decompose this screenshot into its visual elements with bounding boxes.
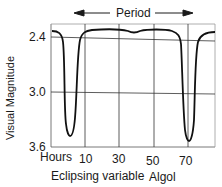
x-axis-label-hours: Hours — [40, 151, 72, 163]
x-tick-10: 10 — [79, 153, 92, 165]
period-label: Period — [116, 7, 151, 19]
caption-algol: Algol — [149, 171, 176, 183]
caption-eclipsing-variable: Eclipsing variable — [51, 170, 144, 182]
x-tick-30: 30 — [112, 153, 125, 165]
y-axis-label: Visual Magnitude — [4, 56, 16, 140]
y-tick-2-4: 2.4 — [29, 31, 46, 43]
gridlines — [51, 24, 215, 147]
plot-frame — [51, 24, 215, 147]
x-tick-50: 50 — [146, 155, 159, 167]
x-tick-70: 70 — [179, 155, 192, 167]
y-tick-3-0: 3.0 — [29, 86, 46, 98]
light-curve-line — [52, 29, 215, 141]
